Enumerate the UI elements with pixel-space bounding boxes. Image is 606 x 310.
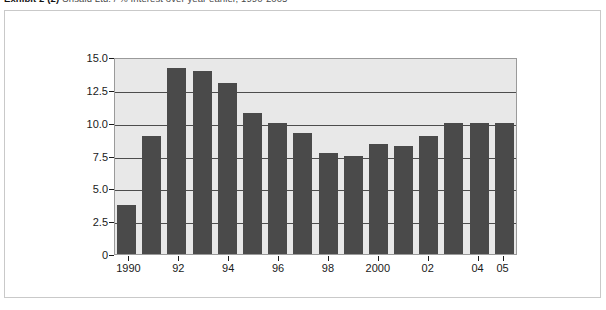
y-tick-label: 5.0: [70, 184, 108, 195]
plot-area: [114, 58, 517, 255]
y-tick-mark: [109, 157, 114, 158]
bar: [369, 144, 388, 254]
bar: [218, 83, 237, 254]
x-tick-mark: [128, 256, 129, 261]
y-tick-label: 15.0: [70, 53, 108, 64]
bar: [193, 71, 212, 254]
x-tick-mark: [328, 256, 329, 261]
screenshot-page: Exhibit 2 (2) Unsaid Ltd. / % Interest o…: [0, 0, 606, 310]
bar: [419, 136, 438, 254]
x-tick-mark: [503, 256, 504, 261]
x-tick-label: 92: [172, 263, 184, 274]
y-tick-mark: [109, 58, 114, 59]
bar: [142, 136, 161, 254]
y-tick-label: 7.5: [70, 151, 108, 162]
bar: [319, 153, 338, 254]
bar: [167, 68, 186, 254]
bar: [495, 123, 514, 254]
y-tick-mark: [109, 91, 114, 92]
bar: [243, 113, 262, 254]
bar: [394, 146, 413, 254]
bar: [293, 133, 312, 254]
x-tick-label: 05: [496, 263, 508, 274]
y-tick-mark: [109, 124, 114, 125]
x-tick-label: 94: [222, 263, 234, 274]
y-tick-mark: [109, 189, 114, 190]
bar: [268, 123, 287, 254]
y-tick-label: 2.5: [70, 217, 108, 228]
x-tick-label: 98: [322, 263, 334, 274]
x-tick-mark: [478, 256, 479, 261]
bar-series: [115, 59, 516, 254]
y-tick-label: 0: [70, 250, 108, 261]
bar: [444, 123, 463, 254]
x-tick-mark: [228, 256, 229, 261]
x-tick-mark: [378, 256, 379, 261]
x-tick-label: 02: [422, 263, 434, 274]
bar: [117, 205, 136, 254]
y-tick-mark: [109, 255, 114, 256]
y-axis-labels: 15.012.510.07.55.02.50: [66, 58, 108, 255]
x-tick-label: 04: [471, 263, 483, 274]
bar: [470, 123, 489, 254]
x-tick-mark: [428, 256, 429, 261]
bar-chart-figure: 15.012.510.07.55.02.50 19909294969820000…: [0, 0, 606, 310]
y-tick-label: 10.0: [70, 118, 108, 129]
x-tick-mark: [278, 256, 279, 261]
x-tick-label: 96: [272, 263, 284, 274]
y-tick-mark: [109, 222, 114, 223]
x-tick-label: 2000: [366, 263, 390, 274]
x-tick-label: 1990: [116, 263, 140, 274]
bar: [344, 156, 363, 255]
y-tick-label: 12.5: [70, 85, 108, 96]
x-tick-mark: [178, 256, 179, 261]
